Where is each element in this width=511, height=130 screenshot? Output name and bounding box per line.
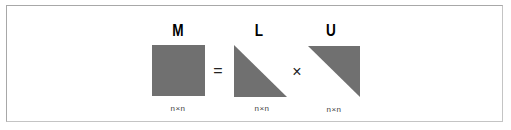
matrix-label-l: L — [247, 22, 271, 40]
dimension-u: n×n — [314, 105, 354, 114]
matrix-label-m: M — [166, 22, 190, 40]
equals-sign: = — [208, 63, 228, 79]
dimension-m: n×n — [158, 104, 198, 113]
matrix-u-upper-triangle — [308, 46, 360, 97]
matrix-l-lower-triangle — [234, 45, 287, 97]
dimension-l: n×n — [242, 104, 282, 113]
times-sign: × — [287, 64, 307, 80]
matrix-m-square — [152, 45, 205, 96]
matrix-label-u: U — [319, 22, 343, 40]
